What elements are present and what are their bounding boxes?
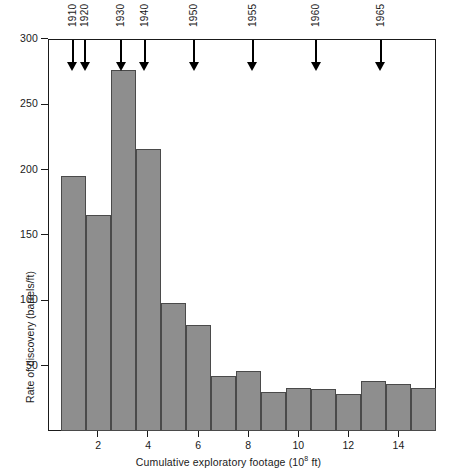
x-axis-title-tail: ft) <box>308 456 321 468</box>
y-axis-title-host: Rate of discovery (barrels/ft) <box>14 135 15 136</box>
down-arrow-head-icon <box>375 62 385 71</box>
x-axis-tick <box>298 431 299 437</box>
x-axis-tick-label: 14 <box>383 440 413 451</box>
y-axis-tick-label: 300 <box>2 33 38 44</box>
year-arrow-label: 1910 <box>67 4 78 37</box>
year-arrow-label: 1955 <box>247 4 258 37</box>
x-axis-tick-label: 2 <box>83 440 113 451</box>
y-axis-tick-label: 200 <box>2 164 38 175</box>
down-arrow-head-icon <box>189 62 199 71</box>
x-axis-tick <box>198 431 199 437</box>
year-arrow-label: 1950 <box>188 4 199 37</box>
x-axis-tick-label: 12 <box>333 440 363 451</box>
down-arrow-head-icon <box>139 62 149 71</box>
down-arrow-head-icon <box>116 62 126 71</box>
x-axis-tick <box>97 431 98 437</box>
x-axis-tick-label: 6 <box>183 440 213 451</box>
year-arrow-label: 1960 <box>310 4 321 37</box>
down-arrow-head-icon <box>311 62 321 71</box>
year-arrow-label: 1930 <box>115 4 126 37</box>
x-axis-tick <box>398 431 399 437</box>
down-arrow-head-icon <box>247 62 257 71</box>
x-axis-tick-label: 10 <box>283 440 313 451</box>
x-axis-title: Cumulative exploratory footage (108 ft) <box>0 455 457 468</box>
x-axis-tick <box>248 431 249 437</box>
chart-figure: 501001502002503002468101214 191019201930… <box>0 0 457 471</box>
down-arrow-head-icon <box>80 62 90 71</box>
y-axis-tick-label: 250 <box>2 98 38 109</box>
y-axis-tick <box>41 38 48 39</box>
x-axis-tick <box>348 431 349 437</box>
x-axis-tick <box>147 431 148 437</box>
year-arrow-label: 1965 <box>375 4 386 37</box>
x-axis-tick-label: 4 <box>133 440 163 451</box>
down-arrow-head-icon <box>67 62 77 71</box>
y-axis-tick <box>41 300 48 301</box>
y-axis-tick <box>41 104 48 105</box>
year-arrow-label: 1940 <box>139 4 150 37</box>
y-axis-tick <box>41 169 48 170</box>
x-axis-title-base: Cumulative exploratory footage (10 <box>136 456 305 468</box>
x-axis-tick-label: 8 <box>233 440 263 451</box>
y-axis-tick <box>41 365 48 366</box>
year-arrow-label: 1920 <box>79 4 90 37</box>
y-axis-tick <box>41 234 48 235</box>
y-axis-title: Rate of discovery (barrels/ft) <box>24 237 36 437</box>
